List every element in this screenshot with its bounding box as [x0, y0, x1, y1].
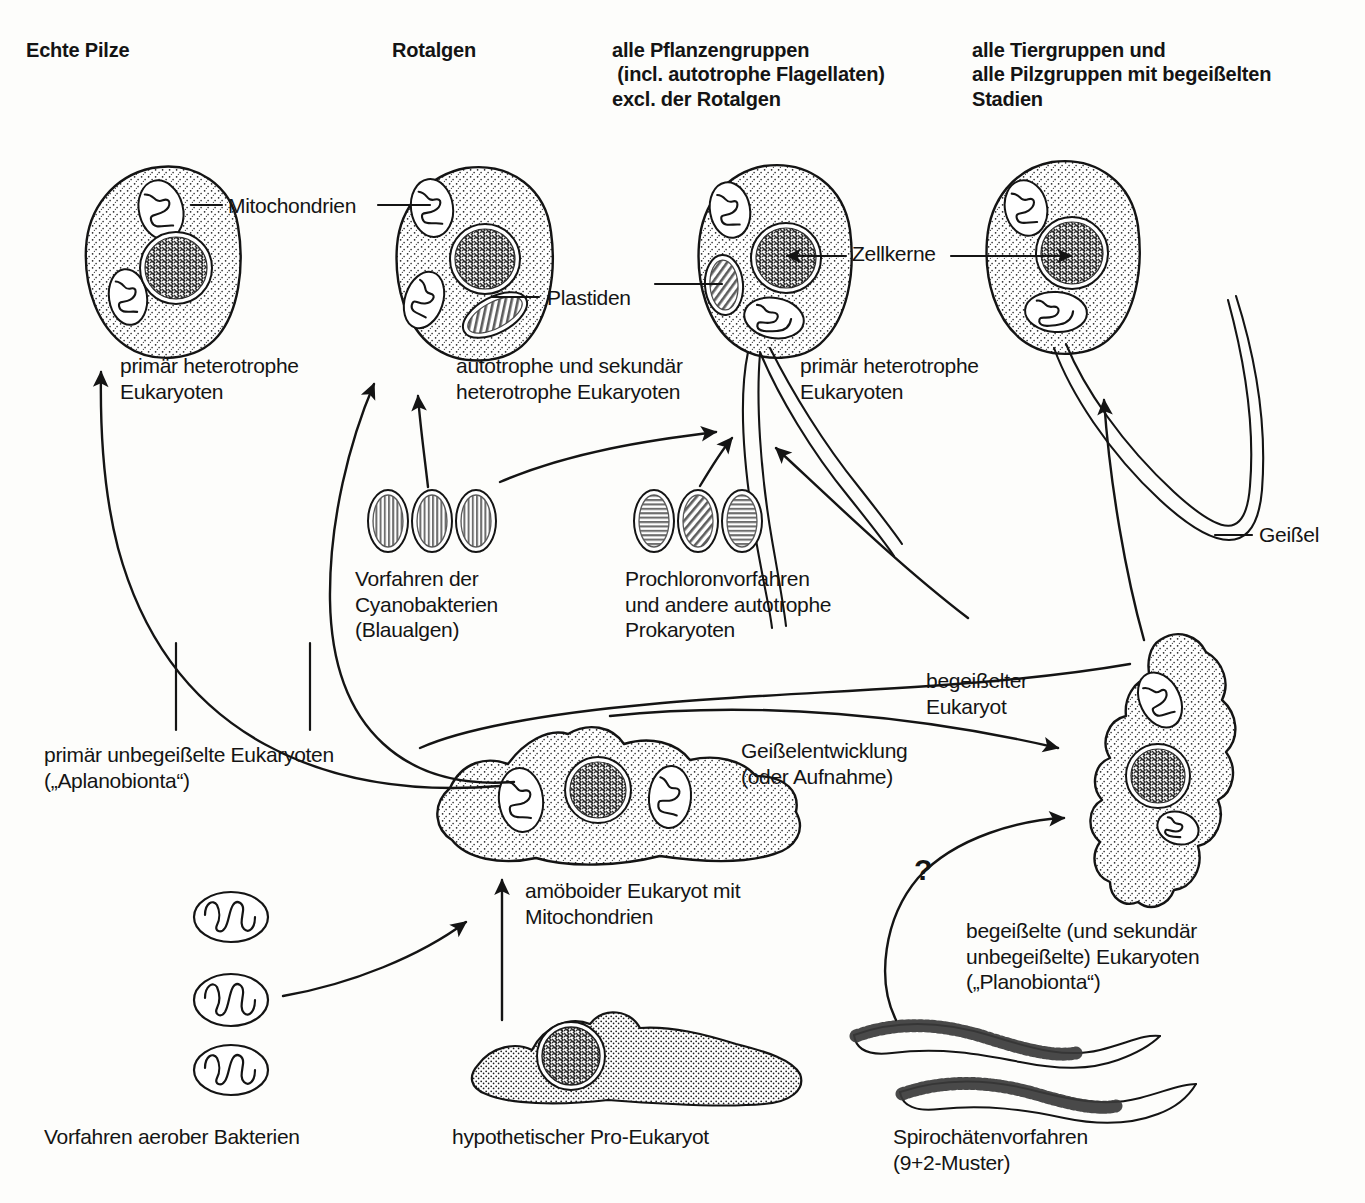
- header-rotalgen: Rotalgen: [392, 38, 476, 62]
- header-tiergruppen: alle Tiergruppen und alle Pilzgruppen mi…: [972, 38, 1271, 111]
- caption-prochloron: Prochloronvorfahren und andere autotroph…: [625, 566, 831, 643]
- cell-tiergruppen: [987, 161, 1264, 540]
- label-zellkerne: Zellkerne: [852, 241, 936, 267]
- label-uncertainty-question-mark: ?: [914, 852, 932, 889]
- header-echte-pilze: Echte Pilze: [26, 38, 129, 62]
- label-geissel: Geißel: [1259, 522, 1319, 548]
- label-geisselentwicklung: Geißelentwicklung (oder Aufnahme): [741, 738, 907, 789]
- cell-begeisselter-eukaryot: [1090, 634, 1235, 907]
- caption-spirochaeten: Spirochätenvorfahren (9+2-Muster): [893, 1124, 1088, 1175]
- diagram-canvas: Echte Pilze Rotalgen alle Pflanzengruppe…: [0, 0, 1365, 1203]
- spirochaeten-group: [854, 1024, 1196, 1123]
- caption-planobionta: begeißelte (und sekundär unbegeißelte) E…: [966, 918, 1199, 995]
- label-plastiden: Plastiden: [547, 285, 631, 311]
- cell-rotalgen: [397, 167, 553, 360]
- header-pflanzengruppen: alle Pflanzengruppen (incl. autotrophe F…: [612, 38, 885, 111]
- cyanobacteria-group: [368, 490, 496, 552]
- cell-echte-pilze: [86, 167, 241, 358]
- caption-aerobe-bakterien: Vorfahren aerober Bakterien: [44, 1124, 300, 1150]
- label-begeisselter-eukaryot: begeißelter Eukaryot: [926, 668, 1028, 719]
- caption-pro-eukaryot: hypothetischer Pro-Eukaryot: [452, 1124, 709, 1150]
- caption-cyanobakterien: Vorfahren der Cyanobakterien (Blaualgen): [355, 566, 498, 643]
- label-amoeboider-eukaryot: amöboider Eukaryot mit Mitochondrien: [525, 878, 740, 929]
- prochloron-group: [634, 490, 762, 552]
- aerobe-bakterien-group: [194, 892, 268, 1095]
- caption-cell-pflanzengruppen: primär heterotrophe Eukaryoten: [800, 353, 979, 404]
- caption-cell-echte-pilze: primär heterotrophe Eukaryoten: [120, 353, 299, 404]
- cell-pro-eukaryot: [472, 1012, 801, 1105]
- caption-aplanobionta: primär unbegeißelte Eukaryoten („Aplanob…: [44, 742, 334, 793]
- label-mitochondrien: Mitochondrien: [228, 193, 356, 219]
- caption-cell-rotalgen: autotrophe und sekundär heterotrophe Euk…: [456, 353, 683, 404]
